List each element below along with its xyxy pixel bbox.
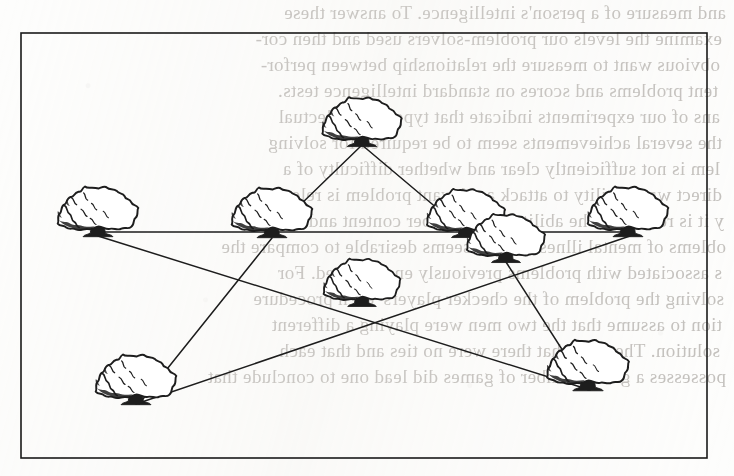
tree-upper-right bbox=[588, 187, 669, 237]
tree-nodes bbox=[58, 97, 669, 404]
tree-bottom-right bbox=[547, 340, 629, 391]
tree-upper-left bbox=[58, 187, 139, 237]
line-left-to-bottomright bbox=[98, 236, 590, 390]
tree-bottom-left bbox=[96, 355, 177, 405]
figure-canvas bbox=[0, 0, 734, 476]
scanned-page: and measure of a person's intelligence. … bbox=[0, 0, 734, 476]
tree-mid-left bbox=[232, 188, 313, 238]
tree-center bbox=[323, 259, 400, 307]
tree-network-figure bbox=[0, 0, 734, 476]
tree-top-center bbox=[322, 97, 401, 146]
